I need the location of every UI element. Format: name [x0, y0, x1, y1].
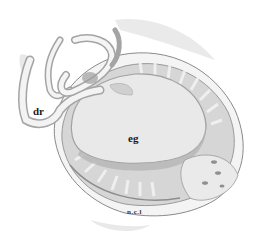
- label-eg: eg: [128, 133, 138, 144]
- label-dr: dr: [33, 106, 44, 117]
- illustration-canvas: dr eg n.c.l: [0, 0, 267, 246]
- label-ncl: n.c.l: [127, 209, 142, 216]
